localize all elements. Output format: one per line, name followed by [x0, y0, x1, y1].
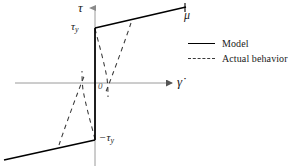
- legend-swatch-dashed-icon: [188, 58, 215, 60]
- plot-canvas: [0, 0, 293, 166]
- legend-label-model: Model: [222, 38, 249, 49]
- yield-stress-negative-label: −τy: [99, 132, 114, 145]
- legend-item-model: Model: [188, 36, 292, 51]
- y-axis-label: τ: [78, 1, 83, 14]
- x-axis-label: γ̇: [177, 75, 182, 88]
- slope-label-mu: μ: [184, 9, 190, 21]
- actual-curve-lower-left: [59, 74, 85, 145]
- yield-stress-negative-symbol: −τ: [99, 131, 110, 143]
- axes-group: [15, 8, 172, 166]
- yield-stress-positive-label: τy: [71, 21, 78, 34]
- actual-curve-lower-right: [82, 71, 95, 139]
- origin-label: 0: [98, 82, 103, 91]
- model-upper-branch: [95, 7, 186, 28]
- yield-stress-positive-subscript: y: [75, 25, 79, 34]
- legend: Model Actual behavior: [188, 36, 292, 66]
- shear-stress-shear-rate-figure: τ γ̇ μ τy −τy 0 Model Actual behavior: [0, 0, 293, 166]
- model-lower-branch: [4, 140, 95, 160]
- legend-swatch-solid-icon: [188, 43, 215, 45]
- yield-stress-negative-subscript: y: [110, 136, 114, 145]
- legend-item-actual-behavior: Actual behavior: [188, 51, 292, 66]
- legend-label-actual-behavior: Actual behavior: [222, 53, 288, 64]
